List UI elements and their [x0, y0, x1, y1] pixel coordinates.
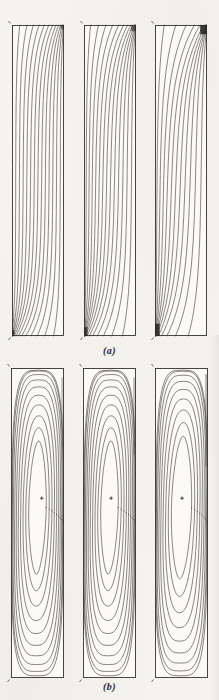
caption-b: (b)	[0, 681, 219, 692]
contour-crowding-smudge	[133, 377, 135, 455]
streamline-panel-3	[155, 368, 208, 678]
scan-edge-shadow	[210, 335, 219, 700]
contour-crowding-blob	[155, 324, 160, 336]
streamline-panel-2	[83, 368, 136, 678]
contour-crowding-blob	[131, 25, 136, 31]
corner-tick-top-left	[9, 21, 11, 24]
isotherm-panel-3	[155, 25, 207, 336]
corner-tick-top-left	[152, 364, 154, 367]
streamline-panel-1	[11, 368, 64, 678]
corner-tick-top-left	[80, 364, 82, 367]
isotherm-panel-1	[12, 25, 64, 336]
contour-crowding-blob	[200, 25, 207, 34]
corner-tick-top-left	[152, 21, 154, 24]
corner-tick-top-left	[8, 364, 10, 367]
panel-border	[156, 26, 207, 336]
contour-crowding-blob	[60, 25, 64, 29]
contour-crowding-smudge	[205, 374, 207, 467]
corner-tick-bottom-left	[9, 338, 11, 341]
corner-tick-bottom-left	[81, 338, 83, 341]
contour-crowding-smudge	[61, 377, 63, 445]
caption-a: (a)	[0, 345, 219, 356]
contour-crowding-blob	[84, 327, 88, 336]
corner-tick-bottom-left	[152, 338, 154, 341]
corner-tick-top-left	[81, 21, 83, 24]
isotherm-panel-2	[84, 25, 136, 336]
contour-crowding-blob	[12, 330, 15, 336]
